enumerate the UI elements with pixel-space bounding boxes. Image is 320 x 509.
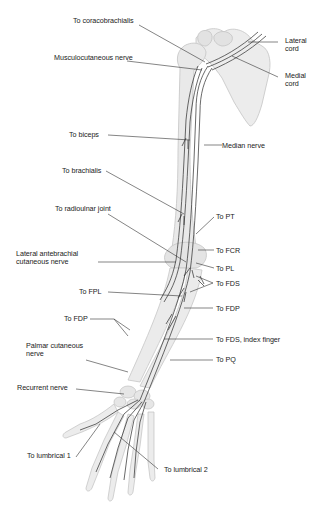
- label-to-fds: To FDS: [216, 280, 240, 288]
- label-recurrent-nerve: Recurrent nerve: [17, 384, 68, 392]
- label-median-nerve: Median nerve: [222, 142, 265, 150]
- label-to-fpl: To FPL: [79, 288, 101, 296]
- label-to-coracobrachialis: To coracobrachialis: [73, 17, 134, 25]
- label-to-fds-index-finger: To FDS, index finger: [216, 336, 280, 344]
- label-palmar-cutaneous-line2: nerve: [26, 350, 44, 358]
- humerus: [165, 43, 207, 268]
- label-lateral-antebrachial-line2: cutaneous nerve: [16, 258, 68, 266]
- label-to-pq: To PQ: [216, 356, 236, 364]
- forearm-bones: [128, 268, 202, 388]
- label-medial-cord-line2: cord: [285, 80, 299, 88]
- label-musculocutaneous-nerve: Musculocutaneous nerve: [54, 54, 133, 62]
- label-to-pt: To PT: [216, 213, 235, 221]
- label-to-lumbrical-1: To lumbrical 1: [27, 452, 71, 460]
- label-to-biceps: To biceps: [69, 131, 99, 139]
- anatomy-figure: To coracobrachialis Musculocutaneous ner…: [0, 0, 320, 509]
- label-lateral-cord-line2: cord: [285, 45, 299, 53]
- label-to-fcr: To FCR: [216, 247, 240, 255]
- label-to-fdp-right: To FDP: [216, 305, 240, 313]
- label-to-pl: To PL: [216, 265, 234, 273]
- label-to-brachialis: To brachialis: [62, 167, 101, 175]
- label-to-lumbrical-2: To lumbrical 2: [164, 466, 208, 474]
- label-to-fdp-left: To FDP: [64, 315, 88, 323]
- label-to-radioulnar-joint: To radioulnar joint: [55, 205, 111, 213]
